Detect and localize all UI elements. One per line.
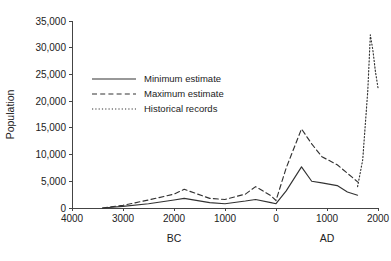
legend-label-historical-records: Historical records xyxy=(144,103,218,114)
y-tick-label: 35,000 xyxy=(35,16,66,27)
y-tick-label: 5,000 xyxy=(41,176,66,187)
x-tick-label: 4000 xyxy=(61,213,84,224)
y-axis-title: Population xyxy=(4,90,16,140)
y-tick-label: 10,000 xyxy=(35,149,66,160)
x-tick-label: 2000 xyxy=(367,213,390,224)
x-tick-label: 0 xyxy=(273,213,279,224)
x-axis-tick-labels: 4000300020001000010002000 xyxy=(61,213,390,224)
series-line-historical-records xyxy=(358,35,378,187)
y-axis-tick-labels: 05,00010,00015,00020,00025,00030,00035,0… xyxy=(35,16,66,214)
axis-tick-marks xyxy=(69,21,378,211)
series-line-minimum-estimate xyxy=(103,167,358,208)
legend-label-maximum-estimate: Maximum estimate xyxy=(144,88,224,99)
y-tick-label: 15,000 xyxy=(35,122,66,133)
series-line-maximum-estimate xyxy=(103,129,358,208)
legend-label-minimum-estimate: Minimum estimate xyxy=(144,73,221,84)
chart-canvas: 05,00010,00015,00020,00025,00030,00035,0… xyxy=(0,0,391,261)
y-tick-label: 30,000 xyxy=(35,42,66,53)
y-tick-label: 0 xyxy=(60,203,66,214)
x-tick-label: 3000 xyxy=(112,213,135,224)
data-series-group xyxy=(103,35,378,208)
population-line-chart: 05,00010,00015,00020,00025,00030,00035,0… xyxy=(0,0,391,261)
era-label-bc: BC xyxy=(167,232,182,244)
y-tick-label: 20,000 xyxy=(35,96,66,107)
era-labels: BCAD xyxy=(167,232,335,244)
y-tick-label: 25,000 xyxy=(35,69,66,80)
era-label-ad: AD xyxy=(320,232,335,244)
x-tick-label: 1000 xyxy=(316,213,339,224)
chart-legend: Minimum estimateMaximum estimateHistoric… xyxy=(92,73,224,114)
x-tick-label: 2000 xyxy=(163,213,186,224)
x-tick-label: 1000 xyxy=(214,213,237,224)
